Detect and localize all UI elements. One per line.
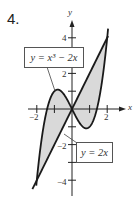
line-equation-label: y = 2x	[76, 142, 113, 163]
y-tick-label-2: 2	[62, 69, 67, 79]
x-axis-label: x	[128, 102, 132, 112]
cubic-leader-line	[47, 67, 55, 91]
x-tick-label-neg2: −2	[29, 112, 39, 122]
y-axis-arrow-icon	[70, 20, 75, 27]
y-tick-label-4: 4	[62, 33, 67, 43]
cubic-equation-label: y = x³ − 2x	[24, 47, 84, 68]
graph	[0, 0, 136, 203]
y-axis-label: y	[68, 7, 72, 17]
y-tick-label-neg2: −2	[57, 141, 67, 151]
x-tick-label-2: 2	[104, 112, 109, 122]
y-tick-label-neg4: −4	[57, 177, 67, 187]
x-axis-arrow-icon	[119, 107, 126, 112]
